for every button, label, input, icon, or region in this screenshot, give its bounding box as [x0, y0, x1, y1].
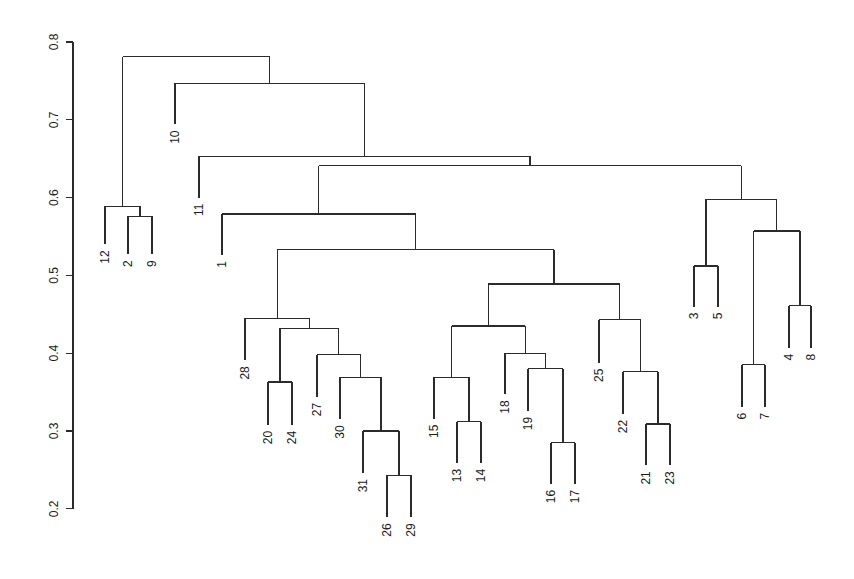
leaf-label: 14 [474, 469, 488, 483]
leaf-label: 24 [285, 430, 299, 444]
y-tick-label: 0.8 [47, 33, 61, 50]
leaf-label: 27 [310, 402, 324, 416]
leaf-label: 23 [663, 471, 677, 485]
leaf-label: 8 [804, 353, 818, 360]
leaf-label: 10 [168, 130, 182, 144]
leaf-label: 16 [544, 490, 558, 504]
y-tick-label: 0.6 [47, 189, 61, 206]
leaf-label: 26 [380, 523, 394, 537]
leaf-label: 29 [404, 523, 418, 537]
y-tick-label: 0.7 [47, 111, 61, 128]
leaf-label: 28 [238, 366, 252, 380]
leaf-label: 7 [758, 413, 772, 420]
y-tick-label: 0.2 [47, 500, 61, 517]
leaf-label: 4 [782, 353, 796, 360]
leaf-label: 17 [568, 490, 582, 504]
leaf-label: 2 [121, 260, 135, 267]
leaf-label: 25 [592, 368, 606, 382]
leaf-label: 31 [356, 479, 370, 493]
y-tick-label: 0.3 [47, 422, 61, 439]
leaf-label: 15 [427, 424, 441, 438]
dendrogram-tree [105, 57, 811, 518]
leaf-label: 9 [145, 260, 159, 267]
leaf-label: 19 [521, 416, 535, 430]
leaf-label: 20 [261, 430, 275, 444]
leaf-label: 30 [333, 425, 347, 439]
leaf-label: 11 [192, 203, 206, 216]
leaf-label: 21 [639, 471, 653, 485]
leaf-labels: 1229101112820242730312629151314181916172… [98, 130, 818, 537]
leaf-label: 18 [498, 400, 512, 414]
leaf-label: 12 [98, 250, 112, 264]
y-tick-label: 0.4 [47, 345, 61, 362]
leaf-label: 5 [711, 312, 725, 319]
y-axis: 0.20.30.40.50.60.70.8 [47, 33, 73, 517]
leaf-label: 13 [450, 469, 464, 483]
leaf-label: 1 [215, 261, 229, 268]
leaf-label: 3 [687, 312, 701, 319]
leaf-label: 6 [735, 413, 749, 420]
dendrogram-chart: 0.20.30.40.50.60.70.8 122910111282024273… [0, 0, 854, 579]
y-tick-label: 0.5 [47, 267, 61, 284]
leaf-label: 22 [616, 420, 630, 434]
